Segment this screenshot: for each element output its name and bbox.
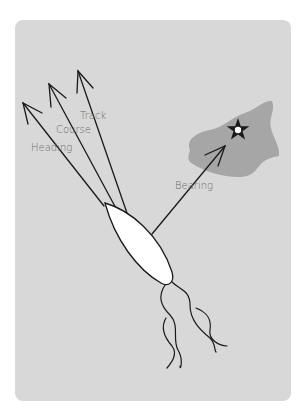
heading-label: Heading xyxy=(31,142,72,153)
diagram-panel xyxy=(15,20,291,401)
track-label: Track xyxy=(80,110,106,121)
bearing-label: Bearing xyxy=(175,180,213,191)
navigation-diagram: Heading Course Track Bearing xyxy=(0,0,306,418)
course-label: Course xyxy=(56,124,91,135)
